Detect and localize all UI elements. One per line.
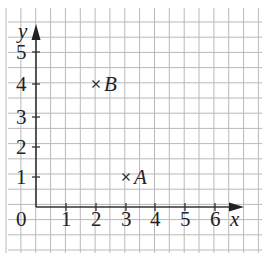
point-a-marker <box>123 174 130 181</box>
point-a-label: A <box>132 165 147 189</box>
coordinate-grid-diagram: x y 0 1 2 3 4 5 6 1 2 3 4 5 A B <box>0 0 265 253</box>
y-tick-label-3: 3 <box>16 105 27 129</box>
x-tick-label-3: 3 <box>121 207 132 231</box>
axis-ticks <box>32 52 215 211</box>
origin-label: 0 <box>16 207 27 231</box>
x-tick-label-1: 1 <box>61 207 72 231</box>
point-b-marker <box>93 81 100 88</box>
grid-lines <box>6 8 262 253</box>
point-b-label: B <box>104 72 117 96</box>
x-axis-label: x <box>229 207 240 231</box>
y-tick-label-2: 2 <box>16 135 27 159</box>
x-tick-label-2: 2 <box>91 207 102 231</box>
y-axis-arrowhead <box>32 24 41 40</box>
x-tick-label-6: 6 <box>210 207 221 231</box>
x-tick-label-4: 4 <box>150 207 161 231</box>
y-tick-label-5: 5 <box>16 40 27 64</box>
y-tick-label-4: 4 <box>16 72 27 96</box>
y-tick-label-1: 1 <box>16 165 27 189</box>
x-tick-label-5: 5 <box>180 207 191 231</box>
